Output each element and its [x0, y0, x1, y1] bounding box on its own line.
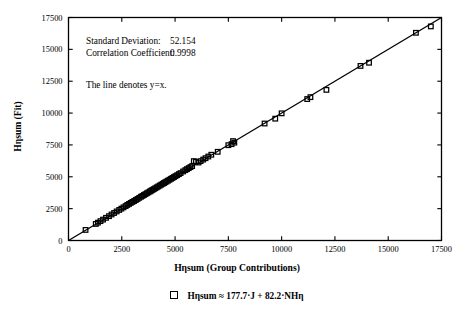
annotation-line-note: The line denotes y=x. — [86, 80, 167, 92]
y-axis-tick-label: 17500 — [42, 14, 63, 23]
annotation-correlation-coefficient-value: 0.9998 — [170, 48, 196, 60]
x-axis-tick-label: 2500 — [113, 245, 130, 254]
legend-label: Hηsum ≈ 177.7·J + 82.2·NHη — [187, 291, 303, 301]
x-axis-tick-label: 10000 — [271, 245, 292, 254]
x-axis-tick-label: 12500 — [324, 245, 345, 254]
x-axis-tick-label: 0 — [66, 245, 70, 254]
chart-figure: 0250050007500100001250015000175000250050… — [0, 0, 474, 316]
annotation-standard-deviation-value: 52.154 — [170, 36, 196, 48]
y-axis-tick-label: 0 — [58, 237, 62, 246]
x-axis-tick-label: 7500 — [220, 245, 237, 254]
y-axis-title: Hηsum (Fit) — [12, 72, 23, 182]
chart-legend: Hηsum ≈ 177.7·J + 82.2·NHη — [0, 290, 474, 301]
x-axis-tick-label: 5000 — [167, 245, 184, 254]
y-axis-tick-label: 5000 — [46, 173, 63, 182]
annotation-standard-deviation-label: Standard Deviation: — [86, 36, 161, 48]
annotation-correlation-coefficient-label: Correlation Coefficient: — [86, 48, 175, 60]
x-axis-title: Hηsum (Group Contributions) — [0, 262, 474, 273]
data-point-marker — [324, 88, 329, 93]
y-axis-tick-label: 12500 — [42, 77, 63, 86]
x-axis-tick-label: 17500 — [431, 245, 452, 254]
legend-marker-open-square-icon — [170, 291, 178, 299]
y-axis-tick-label: 15000 — [42, 45, 63, 54]
y-axis-tick-label: 7500 — [46, 141, 63, 150]
y-axis-tick-label: 10000 — [42, 109, 63, 118]
x-axis-tick-label: 15000 — [378, 245, 399, 254]
y-axis-tick-label: 2500 — [46, 205, 63, 214]
